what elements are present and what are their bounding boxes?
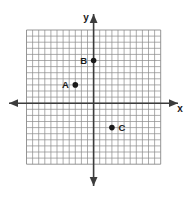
x-axis-label: x	[177, 103, 183, 114]
y-axis-up-arrow-icon	[90, 14, 98, 23]
point-marker[interactable]	[73, 82, 79, 88]
point-marker[interactable]	[109, 125, 115, 131]
y-axis-label: y	[83, 12, 89, 23]
point-label: A	[62, 79, 69, 90]
coordinate-grid-figure: x y ABC	[0, 0, 193, 197]
point-label: B	[80, 55, 87, 66]
point-marker[interactable]	[91, 58, 97, 64]
y-axis-down-arrow-icon	[90, 177, 98, 186]
coordinate-plane: x y ABC	[0, 0, 193, 197]
point-label: C	[118, 122, 125, 133]
x-axis-left-arrow-icon	[9, 99, 18, 107]
